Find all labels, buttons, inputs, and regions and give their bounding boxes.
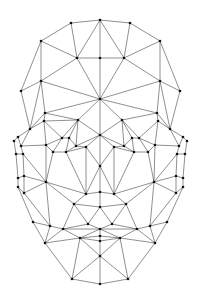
mesh-edge (30, 121, 44, 129)
mesh-edge (100, 192, 114, 194)
mesh-vertex (99, 206, 102, 209)
mesh-vertex (99, 191, 102, 194)
mesh-vertex (61, 137, 64, 140)
mesh-vertex (62, 228, 65, 231)
mesh-edge (44, 121, 62, 138)
mesh-edge (114, 182, 154, 194)
mesh-edge (45, 99, 100, 113)
mesh-edge (74, 204, 88, 224)
mesh-vertex (147, 151, 150, 154)
mesh-vertex (44, 242, 47, 245)
mesh-edge (160, 81, 170, 129)
mesh-edges (14, 20, 187, 284)
mesh-edge (69, 138, 76, 146)
mesh-vertex (73, 203, 76, 206)
mesh-edge (46, 182, 50, 226)
mesh-edge (21, 145, 46, 146)
mesh-edge (100, 224, 112, 229)
mesh-edge (160, 41, 180, 91)
mesh-edge (24, 176, 46, 182)
mesh-vertex (22, 153, 25, 156)
mesh-vertex (127, 278, 130, 281)
mesh-edge (126, 182, 154, 204)
mesh-edge (155, 145, 179, 146)
mesh-vertex (149, 225, 152, 228)
mesh-edge (71, 23, 77, 58)
mesh-vertex (99, 235, 102, 238)
mesh-edge (76, 146, 86, 147)
mesh-edge (86, 192, 100, 194)
mesh-edge (21, 129, 30, 146)
mesh-vertex (43, 120, 46, 123)
mesh-vertex (99, 228, 102, 231)
mesh-edge (66, 146, 76, 152)
mesh-edge (14, 141, 16, 154)
mesh-edge (100, 120, 122, 135)
mesh-edge (80, 236, 100, 238)
mesh-edge (179, 137, 183, 146)
mesh-vertex (77, 119, 80, 122)
mesh-edge (66, 152, 86, 194)
mesh-edge (112, 204, 126, 224)
mesh-edge (44, 121, 46, 145)
mesh-vertex (179, 90, 182, 93)
mesh-edge (120, 229, 137, 238)
mesh-edge (150, 226, 155, 243)
mesh-edge (154, 182, 176, 193)
mesh-edge (21, 81, 41, 91)
mesh-edge (124, 41, 160, 58)
mesh-edge (50, 226, 63, 229)
mesh-vertex (125, 203, 128, 206)
mesh-edge (23, 154, 24, 176)
mesh-vertex (138, 137, 141, 140)
mesh-edge (100, 99, 157, 113)
mesh-edge (30, 81, 41, 129)
mesh-vertex (99, 19, 102, 22)
mesh-edge (155, 121, 158, 145)
mesh-edge (72, 279, 100, 284)
mesh-vertex (17, 177, 20, 180)
mesh-edge (122, 120, 124, 146)
mesh-edge (41, 58, 77, 81)
mesh-edge (88, 207, 100, 224)
mesh-edge (76, 135, 100, 146)
mesh-vertex (79, 237, 82, 240)
mesh-edge (139, 121, 158, 138)
mesh-vertex (111, 223, 114, 226)
mesh-vertex (169, 128, 172, 131)
mesh-vertex (113, 146, 116, 149)
mesh-vertex (113, 193, 116, 196)
mesh-edge (148, 152, 154, 182)
mesh-edge (78, 120, 100, 135)
mesh-vertex (23, 175, 26, 178)
mesh-edge (170, 91, 180, 129)
mesh-edge (100, 207, 112, 224)
mesh-edge (100, 99, 122, 120)
mesh-vertex (182, 136, 185, 139)
mesh-edge (148, 145, 155, 152)
mesh-edge (23, 154, 46, 182)
mesh-edge (78, 99, 100, 120)
mesh-vertex (159, 40, 162, 43)
mesh-vertex (99, 134, 102, 137)
mesh-vertex (65, 151, 68, 154)
mesh-vertex (99, 283, 102, 286)
mesh-edge (41, 81, 45, 113)
mesh-edge (71, 20, 100, 23)
mesh-edge (63, 229, 80, 238)
mesh-vertex (40, 80, 43, 83)
mesh-vertex (45, 144, 48, 147)
mesh-edge (130, 23, 160, 41)
mesh-edge (132, 138, 134, 152)
mesh-edge (45, 113, 78, 120)
mesh-edge (150, 193, 176, 226)
mesh-vertex (175, 192, 178, 195)
mesh-vertex (176, 153, 179, 156)
mesh-edge (185, 141, 187, 154)
mesh-vertex (99, 57, 102, 60)
mesh-edge (16, 154, 18, 178)
mesh-vertex (71, 278, 74, 281)
mesh-edge (124, 146, 134, 152)
mesh-vertex (186, 140, 189, 143)
mesh-edge (137, 226, 150, 229)
